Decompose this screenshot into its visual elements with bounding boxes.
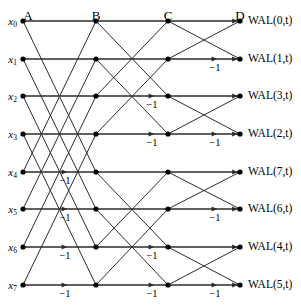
input-label-subscript: 4	[13, 171, 17, 180]
input-label-x0: x0	[8, 16, 17, 27]
input-label-subscript: 0	[13, 20, 17, 29]
node-A-row-4	[20, 169, 25, 174]
input-label-subscript: 3	[13, 133, 17, 142]
arrowhead-stage-a-b-row-5	[62, 206, 68, 211]
output-label-wal-2: WAL(2,t)	[248, 128, 292, 140]
output-label-wal-0: WAL(0,t)	[248, 15, 292, 27]
node-C-row-3	[165, 131, 170, 136]
arrowhead-stage-c-d-row-3	[212, 131, 218, 136]
node-D-row-5	[237, 206, 242, 211]
input-label-x6: x6	[8, 242, 17, 253]
output-label-wal-7: WAL(7,t)	[248, 166, 292, 178]
input-label-x1: x1	[8, 54, 17, 65]
column-header-B: B	[92, 9, 101, 22]
node-A-row-7	[20, 282, 25, 287]
output-label-wal-6: WAL(6,t)	[248, 203, 292, 215]
node-D-row-6	[237, 244, 242, 249]
node-D-row-2	[237, 93, 242, 98]
input-label-subscript: 2	[13, 95, 17, 104]
minus-one-label-stage-b-c-row-7: −1	[146, 289, 157, 300]
input-label-subscript: 7	[13, 284, 17, 293]
output-label-wal-4: WAL(4,t)	[248, 241, 292, 253]
minus-one-label-stage-c-d-row-5: −1	[209, 213, 220, 224]
minus-one-label-stage-c-d-row-7: −1	[209, 289, 220, 300]
arrowhead-stage-b-c-row-2	[149, 93, 155, 98]
minus-one-label-stage-a-b-row-6: −1	[59, 251, 70, 262]
node-C-row-7	[165, 282, 170, 287]
node-D-row-4	[237, 169, 242, 174]
minus-one-label-stage-b-c-row-2: −1	[146, 100, 157, 111]
column-header-A: A	[23, 9, 32, 22]
input-label-x2: x2	[8, 91, 17, 102]
output-label-wal-1: WAL(1,t)	[248, 53, 292, 65]
node-D-row-7	[237, 282, 242, 287]
arrowhead-stage-b-c-row-6	[149, 244, 155, 249]
node-B-row-1	[93, 56, 98, 61]
minus-one-label-stage-b-c-row-6: −1	[146, 251, 157, 262]
node-D-row-1	[237, 56, 242, 61]
node-D-row-3	[237, 131, 242, 136]
node-C-row-4	[165, 169, 170, 174]
input-label-subscript: 6	[13, 246, 17, 255]
minus-one-label-stage-c-d-row-3: −1	[209, 138, 220, 149]
column-header-D: D	[235, 9, 244, 22]
input-label-x4: x4	[8, 167, 17, 178]
minus-one-label-stage-b-c-row-3: −1	[146, 138, 157, 149]
node-B-row-7	[93, 282, 98, 287]
arrowhead-stage-b-c-row-3	[149, 131, 155, 136]
node-B-row-2	[93, 93, 98, 98]
walsh-hadamard-flow-graph: ABCD x0x1x2x3x4x5x6x7 WAL(0,t)WAL(1,t)WA…	[0, 0, 301, 305]
input-label-x5: x5	[8, 204, 17, 215]
node-B-row-6	[93, 244, 98, 249]
arrowhead-stage-a-b-row-4	[62, 169, 68, 174]
minus-one-label-stage-c-d-row-1: −1	[209, 63, 220, 74]
node-B-row-5	[93, 206, 98, 211]
minus-one-label-stage-a-b-row-5: −1	[59, 213, 70, 224]
minus-one-label-stage-a-b-row-7: −1	[59, 289, 70, 300]
input-label-x3: x3	[8, 129, 17, 140]
input-label-x7: x7	[8, 280, 17, 291]
node-A-row-3	[20, 131, 25, 136]
node-C-row-1	[165, 56, 170, 61]
output-label-wal-3: WAL(3,t)	[248, 90, 292, 102]
node-A-row-1	[20, 56, 25, 61]
node-C-row-2	[165, 93, 170, 98]
node-A-row-2	[20, 93, 25, 98]
node-A-row-6	[20, 244, 25, 249]
column-header-C: C	[164, 9, 173, 22]
edges-layer	[23, 21, 240, 285]
minus-one-label-stage-a-b-row-4: −1	[59, 176, 70, 187]
node-C-row-6	[165, 244, 170, 249]
input-label-subscript: 5	[13, 208, 17, 217]
arrowhead-stage-c-d-row-7	[212, 282, 218, 287]
arrowhead-stage-c-d-row-5	[212, 206, 218, 211]
node-C-row-5	[165, 206, 170, 211]
arrowhead-stage-c-d-row-1	[212, 56, 218, 61]
arrowhead-stage-a-b-row-6	[62, 244, 68, 249]
node-B-row-4	[93, 169, 98, 174]
node-A-row-5	[20, 206, 25, 211]
arrowhead-stage-a-b-row-7	[62, 282, 68, 287]
node-B-row-3	[93, 131, 98, 136]
input-label-subscript: 1	[13, 58, 17, 67]
arrowhead-stage-b-c-row-7	[149, 282, 155, 287]
output-label-wal-5: WAL(5,t)	[248, 279, 292, 291]
